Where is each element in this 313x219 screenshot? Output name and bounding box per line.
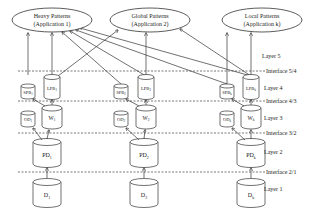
interface-2-1-label: Interface 2/1	[266, 169, 296, 175]
column-2: SPB2 LPB2 OD2 W2 PD2 D2	[114, 75, 158, 208]
layer-1-label: Layer 1	[264, 186, 283, 192]
pd-cylinder-1: PD1	[33, 139, 61, 168]
lpb-cylinder-1: LPB1	[44, 75, 60, 100]
application-heavy-patterns: Heavy Patterns (Application 1)	[12, 8, 92, 32]
column-k: SPBk LPBk ODk Wk PDk Dk	[220, 75, 265, 208]
d-cylinder-2: D2	[130, 179, 158, 208]
lpb-cylinder-2: LPB2	[138, 75, 154, 100]
spb-cylinder-1: SPB1	[21, 84, 35, 99]
application-title: Local Patterns	[245, 13, 280, 19]
layer-2-label: Layer 2	[264, 149, 283, 155]
interface-4-3-label: Interface 4/3	[266, 98, 296, 104]
spb-cylinder-k: SPBk	[220, 84, 234, 99]
layer-5-label: Layer 5	[262, 53, 281, 59]
application-subtitle: (Application 1)	[34, 21, 71, 28]
w-cylinder-1: W1	[42, 105, 62, 129]
application-global-patterns: Global Patterns (Application 2)	[110, 8, 190, 32]
od-cylinder-2: OD2	[114, 111, 128, 127]
layer-4-label: Layer 4	[264, 85, 283, 91]
d-cylinder-1: D1	[33, 179, 61, 208]
layer-3-label: Layer 3	[264, 115, 283, 121]
application-title: Global Patterns	[131, 13, 169, 19]
application-subtitle: (Application 2)	[132, 21, 169, 28]
application-local-patterns: Local Patterns (Application k)	[222, 8, 302, 32]
layered-architecture-diagram: Heavy Patterns (Application 1) Global Pa…	[0, 0, 313, 219]
application-subtitle: (Application k)	[244, 21, 281, 28]
d-cylinder-k: Dk	[237, 179, 265, 208]
od-cylinder-k: ODk	[220, 111, 234, 127]
od-cylinder-1: OD1	[21, 111, 35, 127]
pd-cylinder-2: PD2	[130, 139, 158, 168]
interface-3-2-label: Interface 3/2	[266, 130, 296, 136]
spb-cylinder-2: SPB2	[114, 84, 128, 99]
application-title: Heavy Patterns	[34, 13, 71, 19]
column-1: SPB1 LPB1 OD1 W1 PD1 D1	[21, 75, 62, 208]
interface-5-4-label: Interface 5/4	[266, 68, 296, 74]
pd-cylinder-k: PDk	[237, 139, 265, 168]
lpb-cylinder-k: LPBk	[243, 75, 259, 100]
w-cylinder-k: Wk	[241, 105, 261, 129]
w-cylinder-2: W2	[136, 105, 156, 129]
